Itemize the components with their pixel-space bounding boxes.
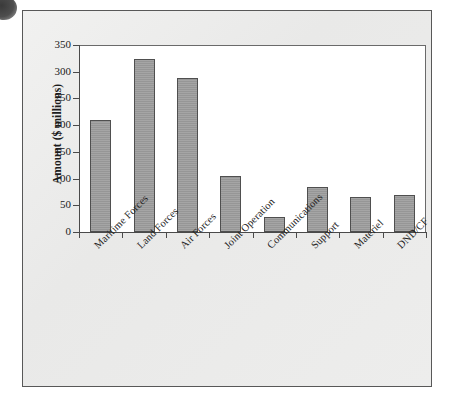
bar [177,78,198,232]
y-axis-tick [73,98,79,99]
y-axis-tick-label-wrap: 350 [22,39,71,50]
bar-chart: Amount ($ millions) 05010015020025030035… [22,10,432,387]
y-axis-tick-label: 50 [29,199,71,210]
y-axis-tick-label: 250 [29,92,71,103]
y-axis-tick-label-wrap: 150 [22,146,71,157]
bar [90,120,111,232]
y-axis-tick-label: 150 [29,146,71,157]
y-axis-tick [73,152,79,153]
y-axis-line [79,45,80,233]
bar [220,176,241,232]
x-axis-tick [122,232,123,238]
y-axis-tick [73,179,79,180]
x-axis-tick [339,232,340,238]
y-axis-tick [73,205,79,206]
x-axis-tick [166,232,167,238]
y-axis-tick-label-wrap: 300 [22,66,71,77]
y-axis-tick-label-wrap: 50 [22,199,71,210]
x-axis-tick [426,232,427,238]
x-axis-tick [79,232,80,238]
y-axis-tick-label-wrap: 100 [22,173,71,184]
y-axis-tick-label-wrap: 0 [22,226,71,237]
x-axis-tick [296,232,297,238]
x-axis-tick [383,232,384,238]
y-axis-tick-label: 350 [29,39,71,50]
y-axis-tick-label-wrap: 250 [22,92,71,103]
x-axis-tick [253,232,254,238]
y-axis-tick-label: 200 [29,119,71,130]
y-axis-tick [73,72,79,73]
y-axis-tick-label: 300 [29,66,71,77]
x-axis-tick [209,232,210,238]
y-axis-tick-label-wrap: 200 [22,119,71,130]
scan-artifact-blob [0,0,17,20]
y-axis-tick [73,45,79,46]
y-axis-tick [73,125,79,126]
y-axis-tick-label: 0 [29,226,71,237]
y-axis-tick-label: 100 [29,173,71,184]
